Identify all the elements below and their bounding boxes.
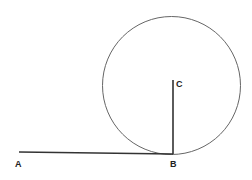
point-label-c: C (176, 80, 183, 89)
segment-ab (19, 152, 173, 154)
point-label-a: A (15, 160, 22, 169)
point-label-b: B (170, 160, 177, 169)
geometry-diagram (0, 0, 252, 180)
circle (103, 17, 241, 155)
